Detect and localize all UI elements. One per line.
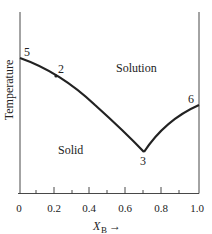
y-axis-label: Temperature [2, 60, 16, 120]
tick-label: 0.8 [154, 202, 168, 214]
point-label-2: 2 [58, 62, 64, 76]
point-label-5: 5 [24, 45, 30, 59]
tick-label: 0.2 [47, 202, 61, 214]
x-axis-label: X B → [92, 219, 121, 234]
tick-label: 0 [16, 202, 22, 214]
tick-label: 0.6 [118, 202, 132, 214]
x-tick-labels: 0 0.2 0.4 0.6 0.8 1.0 [16, 202, 204, 214]
x-axis-label-main: X [92, 219, 101, 233]
tick-label: 1.0 [190, 202, 204, 214]
point-label-6: 6 [188, 92, 194, 106]
x-axis-label-sub: B [101, 225, 107, 234]
phase-diagram: 0 0.2 0.4 0.6 0.8 1.0 5 2 3 6 Solution S… [0, 0, 212, 234]
region-label-solid: Solid [58, 143, 83, 157]
tick-label: 0.4 [82, 202, 96, 214]
x-axis-arrow: → [109, 219, 121, 233]
liquidus-curve-right [144, 105, 199, 152]
x-ticks [36, 187, 179, 194]
region-label-solution: Solution [116, 61, 157, 75]
point-label-3: 3 [140, 154, 146, 168]
